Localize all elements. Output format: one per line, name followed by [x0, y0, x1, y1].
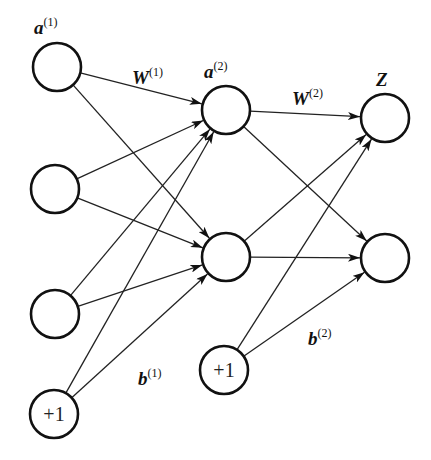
input-layer-label: a(1)	[34, 15, 58, 38]
edge-h2-to-out1	[244, 135, 366, 242]
node-h1	[202, 86, 250, 134]
edge-h1-to-out1	[250, 111, 360, 117]
neural-network-diagram: +1+1 a(1) a(2) Z W(1) W(2) b(1) b(2)	[0, 0, 431, 460]
edge-in3-to-h2	[78, 265, 203, 307]
node-in1	[33, 43, 81, 91]
node-out2	[361, 234, 409, 282]
edge-bias2-to-out1	[237, 139, 372, 350]
node-in2	[31, 165, 79, 213]
edge-bias2-to-out2	[244, 272, 365, 356]
output-layer-label: Z	[375, 69, 388, 90]
node-out1	[361, 94, 409, 142]
edge-h1-to-out2	[244, 126, 367, 241]
edge-h2-to-out2	[250, 257, 360, 258]
bias-node-text: +1	[43, 403, 64, 425]
node-in3	[31, 290, 79, 338]
node-h2	[202, 233, 250, 281]
hidden-layer-label: a(2)	[204, 59, 228, 82]
edge-bias1-to-h1	[66, 132, 214, 393]
edge-in3-to-h1	[70, 129, 210, 295]
bias-1-label: b(1)	[138, 366, 162, 389]
edge-in1-to-h2	[73, 85, 209, 238]
bias-node-text: +1	[213, 359, 234, 381]
node-bias1: +1	[30, 390, 78, 438]
weights-2-label: W(2)	[292, 86, 323, 109]
weights-1-label: W(1)	[132, 65, 163, 88]
edge-in2-to-h2	[77, 198, 203, 248]
node-bias2: +1	[200, 346, 248, 394]
edge-in2-to-h1	[77, 121, 204, 179]
nodes-group: +1+1	[30, 43, 409, 438]
bias-2-label: b(2)	[308, 326, 332, 349]
